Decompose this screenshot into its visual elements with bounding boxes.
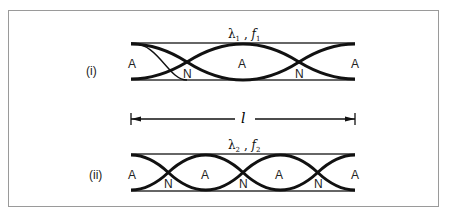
- case-ii-wavelength-frequency: λ2 , f2: [228, 138, 260, 154]
- node-label: N: [164, 178, 173, 190]
- case-ii-label: (ii): [89, 168, 102, 182]
- antinode-label: A: [351, 169, 359, 181]
- node-label: N: [314, 178, 323, 190]
- case-i-wavelength-frequency: λ1 , f1: [228, 27, 260, 43]
- antinode-label: A: [238, 58, 246, 70]
- node-label: N: [183, 68, 192, 80]
- node-label: N: [239, 178, 248, 190]
- node-label: N: [295, 68, 304, 80]
- antinode-label: A: [201, 169, 209, 181]
- length-label: l: [237, 110, 249, 126]
- antinode-label: A: [128, 169, 136, 181]
- antinode-label: A: [128, 58, 136, 70]
- standing-wave-diagram: [0, 0, 450, 217]
- antinode-label: A: [275, 169, 283, 181]
- antinode-label: A: [351, 58, 359, 70]
- case-i-label: (i): [86, 64, 97, 78]
